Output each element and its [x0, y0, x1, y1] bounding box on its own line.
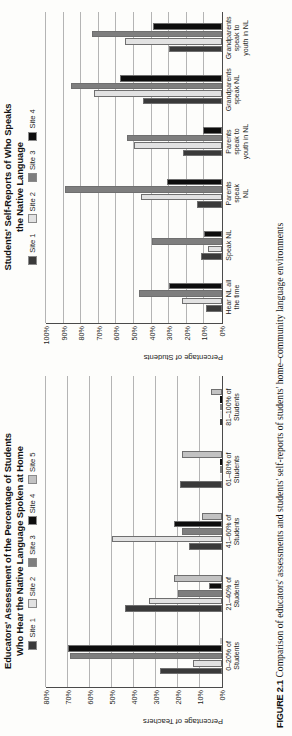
bar[interactable] [183, 150, 222, 157]
legend-item-site-5[interactable]: Site 5 [28, 452, 37, 483]
x-axis-tick-label: Parentsspeak toyouth in NL [225, 116, 250, 168]
bar[interactable] [139, 290, 222, 297]
y-axis-title-students: Percentage of Students [144, 353, 223, 362]
bar[interactable] [125, 605, 222, 612]
x-axis-tick-line: 81–100% of [225, 376, 233, 438]
legend-label: Site 2 [28, 577, 37, 596]
bar[interactable] [208, 246, 222, 253]
legend-label: Site 5 [28, 452, 37, 471]
bar[interactable] [160, 668, 222, 675]
bar-group [46, 376, 222, 438]
chart-title-line2: the Native Language [14, 6, 26, 368]
legend-label: Site 1 [28, 618, 37, 637]
x-axis-tick-line: speak NL [233, 64, 241, 116]
bar[interactable] [92, 31, 222, 38]
legend-label: Site 1 [28, 233, 37, 252]
bar-group [46, 563, 222, 625]
legend-item-site-4[interactable]: Site 4 [28, 109, 37, 140]
x-axis-tick-line: Speak NL [225, 219, 233, 271]
bar[interactable] [153, 23, 222, 30]
bar[interactable] [68, 645, 222, 652]
bar[interactable] [169, 283, 222, 290]
bar[interactable] [94, 90, 222, 97]
bar[interactable] [220, 411, 222, 418]
legend-item-site-4[interactable]: Site 4 [28, 494, 37, 525]
x-axis-tick-label: Grandparentsspeak NL [225, 64, 242, 116]
x-axis-tick-line: speak to [233, 116, 241, 168]
bar[interactable] [220, 404, 222, 411]
students-selfreports-chart: Students' Self-Reports of Who Speaks the… [0, 6, 260, 368]
x-axis-tick-line: 0–20% of [225, 625, 233, 687]
bar[interactable] [204, 231, 222, 238]
legend-swatch-icon [28, 475, 37, 484]
legend-swatch-icon [28, 558, 37, 567]
bar[interactable] [65, 186, 222, 193]
legend-swatch-icon [28, 173, 37, 182]
bar[interactable] [120, 75, 222, 82]
y-axis-tick-label: 60% [86, 690, 95, 704]
bar[interactable] [180, 481, 222, 488]
bar[interactable] [206, 305, 222, 312]
bar[interactable] [141, 194, 222, 201]
educators-assessment-chart: Educators' Assessment of the Percentage … [0, 370, 260, 732]
bar[interactable] [189, 543, 222, 550]
legend-swatch-icon [28, 132, 37, 141]
y-axis-tick-label: 40% [130, 690, 139, 704]
bar[interactable] [127, 135, 222, 142]
bar[interactable] [203, 127, 222, 134]
bar[interactable] [220, 638, 222, 645]
bar[interactable] [202, 513, 222, 520]
x-axis-tick-line: youth in NL [242, 116, 250, 168]
figure-caption: FIGURE 2.1 Comparison of educators' asse… [274, 8, 286, 728]
x-axis-tick-label: Grandparentsspeak toyouth in NL [225, 12, 250, 64]
bar[interactable] [71, 83, 222, 90]
legend-item-site-1[interactable]: Site 1 [28, 618, 37, 649]
bar[interactable] [220, 419, 222, 426]
bar[interactable] [167, 179, 222, 186]
bar[interactable] [125, 38, 222, 45]
legend-item-site-1[interactable]: Site 1 [28, 233, 37, 264]
x-axis-tick-line: youth in NL [242, 12, 250, 64]
bar[interactable] [152, 238, 222, 245]
y-axis-tick-label: 10% [196, 690, 205, 704]
bar[interactable] [211, 389, 222, 396]
y-axis-tick-label: 50% [130, 326, 139, 340]
bar[interactable] [182, 451, 222, 458]
figure-caption-label: FIGURE 2.1 [275, 680, 285, 728]
y-axis-tick-label: 30% [165, 326, 174, 340]
bar[interactable] [143, 98, 222, 105]
x-axis-tick-line: Hear NL all [225, 271, 233, 323]
bar[interactable] [220, 466, 222, 473]
legend-item-site-2[interactable]: Site 2 [28, 192, 37, 223]
bar[interactable] [201, 253, 222, 260]
bar[interactable] [112, 536, 222, 543]
legend-item-site-3[interactable]: Site 3 [28, 151, 37, 182]
y-axis-tick-label: 80% [77, 326, 86, 340]
bar[interactable] [193, 660, 222, 667]
bar[interactable] [220, 459, 222, 466]
bar[interactable] [220, 396, 222, 403]
x-axis-tick-line: Parents [225, 116, 233, 168]
bar[interactable] [182, 298, 222, 305]
x-axis-tick-line: 41–60% of [225, 500, 233, 562]
bar[interactable] [149, 598, 222, 605]
bar[interactable] [134, 142, 222, 149]
rotated-page-wrapper: Educators' Assessment of the Percentage … [0, 0, 292, 736]
bar[interactable] [209, 583, 222, 590]
bar[interactable] [197, 201, 222, 208]
bar[interactable] [178, 590, 222, 597]
bar[interactable] [169, 46, 222, 53]
x-axis-tick-label: 21–40% ofStudents [225, 563, 242, 625]
bar[interactable] [174, 521, 222, 528]
x-axis-tick-line: Students [233, 438, 241, 500]
bar[interactable] [220, 474, 222, 481]
bar[interactable] [182, 528, 222, 535]
bar[interactable] [174, 575, 222, 582]
chart-title-educators: Educators' Assessment of the Percentage … [2, 370, 26, 732]
legend-item-site-2[interactable]: Site 2 [28, 577, 37, 608]
bar[interactable] [70, 653, 222, 660]
y-axis-tick-label: 100% [42, 326, 51, 344]
legend-label: Site 4 [28, 109, 37, 128]
x-axis-tick-label: ParentsspeakNL [225, 168, 250, 220]
legend-item-site-3[interactable]: Site 3 [28, 535, 37, 566]
